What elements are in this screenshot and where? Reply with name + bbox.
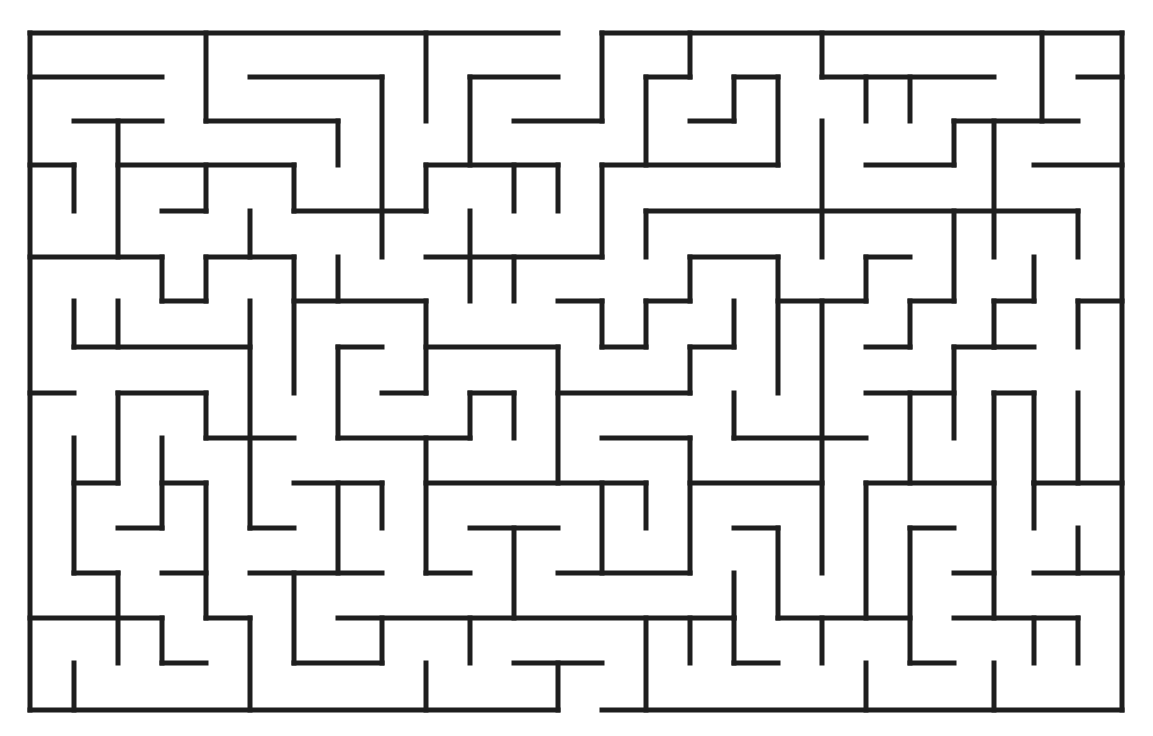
- maze-entrance[interactable]: [560, 28, 600, 38]
- maze-walls: [30, 33, 1122, 710]
- maze-board: [0, 0, 1153, 736]
- maze-exit[interactable]: [560, 705, 600, 715]
